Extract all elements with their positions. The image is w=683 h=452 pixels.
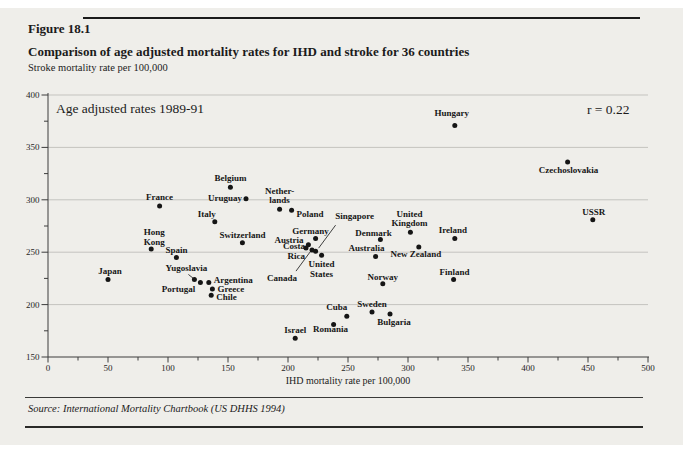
x-axis-label: IHD mortality rate per 100,000 xyxy=(286,375,411,386)
country-label-japan: Japan xyxy=(98,266,122,276)
x-tick-label-350: 350 xyxy=(461,363,475,373)
x-tick-label-400: 400 xyxy=(521,363,535,373)
data-point-uruguay xyxy=(244,196,249,201)
data-point-italy xyxy=(212,219,217,224)
data-point-bulgaria xyxy=(388,312,393,317)
data-point-chile xyxy=(209,293,214,298)
data-point-united-kingdom xyxy=(408,230,413,235)
country-label-hong-kong: HongKong xyxy=(144,227,166,247)
country-label-portugal: Portugal xyxy=(162,284,196,294)
data-point-ussr xyxy=(590,217,595,222)
country-label-ireland: Ireland xyxy=(439,225,467,235)
data-point-denmark xyxy=(378,237,383,242)
data-point-yugoslavia xyxy=(192,277,197,282)
data-point-spain xyxy=(174,255,179,260)
data-point-netherlands xyxy=(277,207,282,212)
country-label-romania: Romania xyxy=(313,324,349,334)
footer-rule-top xyxy=(25,397,643,398)
y-tick-label-150: 150 xyxy=(26,352,40,362)
country-label-bulgaria: Bulgaria xyxy=(377,317,411,327)
x-tick-label-100: 100 xyxy=(161,363,175,373)
data-point-poland xyxy=(289,208,294,213)
country-label-czechoslovakia: Czechoslovakia xyxy=(539,165,599,175)
country-label-spain: Spain xyxy=(165,245,187,255)
x-tick-label-200: 200 xyxy=(281,363,295,373)
correlation-coefficient: r = 0.22 xyxy=(587,102,629,118)
country-label-canada: Canada xyxy=(267,273,298,283)
data-point-singapore xyxy=(313,249,318,254)
data-point-ireland xyxy=(452,236,457,241)
country-label-ussr: USSR xyxy=(582,207,606,217)
x-tick-label-150: 150 xyxy=(221,363,235,373)
data-point-japan xyxy=(106,277,111,282)
x-tick-label-50: 50 xyxy=(104,363,114,373)
data-point-cuba xyxy=(344,314,349,319)
footer-rule-bottom xyxy=(25,426,643,428)
x-tick-label-450: 450 xyxy=(581,363,595,373)
country-label-sweden: Sweden xyxy=(357,299,387,309)
country-label-singapore: Singapore xyxy=(335,211,374,221)
country-label-italy: Italy xyxy=(198,209,217,219)
country-label-norway: Norway xyxy=(368,272,399,282)
chart-annotation: Age adjusted rates 1989-91 xyxy=(56,101,204,117)
y-tick-label-400: 400 xyxy=(26,90,40,100)
y-tick-label-200: 200 xyxy=(26,300,40,310)
source-note: Source: International Mortality Chartboo… xyxy=(28,403,285,414)
country-label-united-kingdom: UnitedKingdom xyxy=(391,209,428,229)
x-tick-label-0: 0 xyxy=(46,363,51,373)
data-point-australia xyxy=(373,254,378,259)
country-label-netherlands: Nether-lands xyxy=(265,186,294,206)
country-label-uruguay: Uruguay xyxy=(208,193,243,203)
data-point-france xyxy=(157,204,162,209)
country-label-switzerland: Switzerland xyxy=(219,230,265,240)
data-point-switzerland xyxy=(240,240,245,245)
country-label-belgium: Belgium xyxy=(214,173,247,183)
x-tick-label-500: 500 xyxy=(641,363,655,373)
country-label-france: France xyxy=(146,192,173,202)
country-label-greece: Greece xyxy=(217,284,244,294)
country-label-israel: Israel xyxy=(284,325,306,335)
y-tick-label-350: 350 xyxy=(26,142,40,152)
country-label-united-states: UnitedStates xyxy=(309,259,335,279)
data-point-hungary xyxy=(452,123,457,128)
data-point-norway xyxy=(380,281,385,286)
data-point-greece xyxy=(210,286,215,291)
y-tick-label-300: 300 xyxy=(26,195,40,205)
data-point-sweden xyxy=(370,309,375,314)
data-point-united-states xyxy=(319,253,324,258)
data-point-czechoslovakia xyxy=(565,160,570,165)
country-label-austria: Austria xyxy=(274,235,303,245)
country-label-poland: Poland xyxy=(297,209,324,219)
x-tick-label-300: 300 xyxy=(401,363,415,373)
country-label-germany: Germany xyxy=(292,226,329,236)
country-label-yugoslavia: Yugoslavia xyxy=(166,263,208,273)
country-label-finland: Finland xyxy=(440,267,470,277)
data-point-germany xyxy=(313,236,318,241)
data-point-hong-kong xyxy=(149,247,154,252)
country-label-australia: Australia xyxy=(349,243,386,253)
y-tick-label-250: 250 xyxy=(26,247,40,257)
figure-page: Figure 18.1 Comparison of age adjusted m… xyxy=(0,0,683,452)
data-point-argentina xyxy=(206,280,211,285)
data-point-portugal xyxy=(198,280,203,285)
data-point-austria xyxy=(306,242,311,247)
country-label-hungary: Hungary xyxy=(435,108,470,118)
x-tick-label-250: 250 xyxy=(341,363,355,373)
data-point-finland xyxy=(451,277,456,282)
country-label-new-zealand: New Zealand xyxy=(390,249,441,259)
country-label-cuba: Cuba xyxy=(326,302,348,312)
data-point-israel xyxy=(293,336,298,341)
country-label-denmark: Denmark xyxy=(355,228,392,238)
data-point-belgium xyxy=(228,185,233,190)
